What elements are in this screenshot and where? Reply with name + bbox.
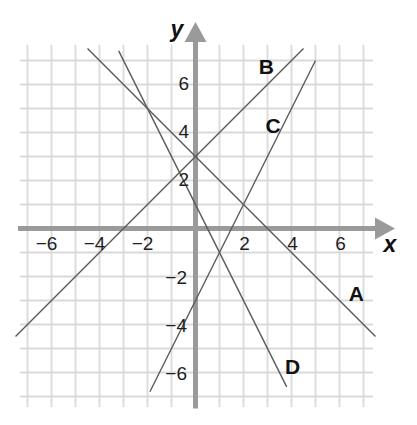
y-tick-label: 6 xyxy=(178,73,189,94)
x-axis-label: x xyxy=(382,231,398,257)
y-tick-label: −4 xyxy=(165,315,187,336)
line-label-D: D xyxy=(285,355,300,378)
y-tick-label: −2 xyxy=(165,267,187,288)
x-tick-label: 4 xyxy=(287,233,298,254)
y-tick-label: 4 xyxy=(178,121,189,142)
x-tick-label: −2 xyxy=(132,233,154,254)
x-tick-label: −6 xyxy=(36,233,58,254)
line-label-C: C xyxy=(265,114,280,137)
y-tick-label: 2 xyxy=(178,169,189,190)
x-tick-label: 6 xyxy=(335,233,346,254)
y-axis-label: y xyxy=(170,16,185,42)
line-label-A: A xyxy=(349,282,364,305)
line-label-B: B xyxy=(259,55,274,78)
x-tick-label: 2 xyxy=(239,233,250,254)
background xyxy=(0,0,417,425)
y-tick-label: −6 xyxy=(165,363,187,384)
x-tick-label: −4 xyxy=(84,233,106,254)
coordinate-plane: −6−4−2246−6−4−2246 ABCD x y xyxy=(0,0,417,425)
